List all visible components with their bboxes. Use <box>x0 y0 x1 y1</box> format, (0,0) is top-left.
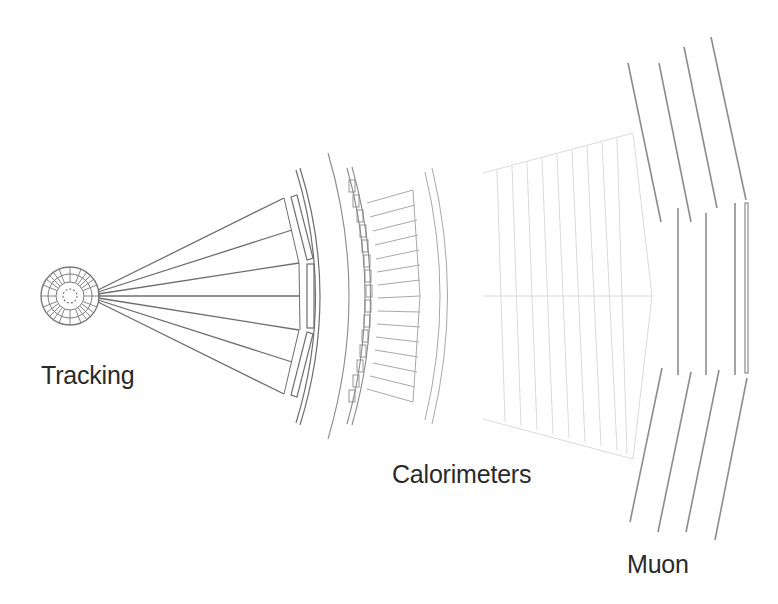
calorimeter-hadron <box>483 133 652 459</box>
muon-chambers <box>628 37 748 540</box>
label-muon: Muon <box>627 550 689 579</box>
calorimeter-inner <box>328 153 372 439</box>
detector-diagram: Tracking Calorimeters Muon <box>0 0 778 604</box>
label-calorimeters: Calorimeters <box>392 460 531 489</box>
tracker-core-icon <box>41 267 99 325</box>
label-tracking: Tracking <box>41 361 134 390</box>
calorimeter-em-towers <box>367 168 448 424</box>
